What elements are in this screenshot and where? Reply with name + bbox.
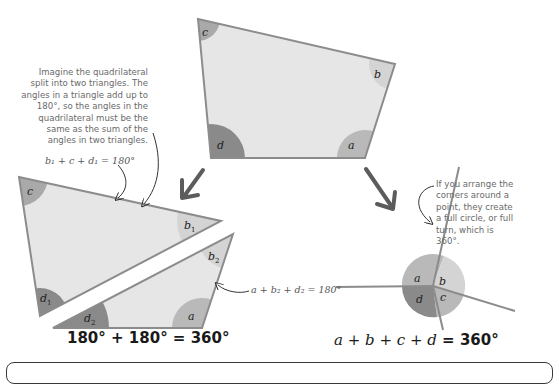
callout-arrow-upper-eq-icon — [118, 165, 126, 198]
callout-arrow-lower-eq-icon — [218, 285, 249, 292]
triangles-sum-result: 180° + 180° = 360° — [67, 329, 229, 347]
lower-triangle-equation: a + b₂ + d₂ = 180° — [251, 284, 341, 295]
label-quad-a: a — [348, 139, 355, 152]
label-circle-b: b — [439, 275, 446, 288]
ray-left — [336, 286, 433, 287]
quadrilateral — [176, 0, 421, 192]
label-circle-d: d — [416, 293, 423, 306]
label-upper-c: c — [27, 185, 33, 198]
label-quad-b: b — [374, 68, 381, 81]
split-explanation-note: Imagine the quadrilateral split into two… — [20, 67, 148, 147]
upper-triangle-equation: b₁ + c + d₁ = 180° — [45, 155, 135, 166]
callout-arrow-circle-icon — [419, 186, 434, 222]
arrow-to-circle-icon — [366, 169, 395, 209]
bottom-frame-border — [6, 362, 553, 384]
label-circle-c: c — [440, 291, 446, 304]
circle-sum-variables: a + b + c + d — [334, 331, 437, 349]
label-quad-d: d — [217, 139, 224, 152]
circle-sum-value: = 360° — [437, 331, 499, 349]
circle-sum-result: a + b + c + d = 360° — [334, 331, 499, 349]
label-circle-a: a — [414, 272, 421, 285]
label-quad-c: c — [202, 26, 208, 39]
arrow-to-triangles-icon — [182, 170, 203, 198]
circle-explanation-note: If you arrange the corners around a poin… — [436, 179, 516, 247]
label-lower-a: a — [188, 310, 195, 323]
